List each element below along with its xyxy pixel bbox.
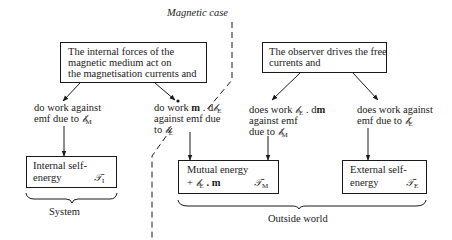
subscript: M <box>86 118 92 126</box>
m-vector: m <box>316 104 325 115</box>
diagram-title: Magnetic case <box>167 7 228 18</box>
internal-self-energy-line-1: Internal self- <box>33 160 87 171</box>
label-work-against-be-line-1: does work against <box>357 104 433 115</box>
text: . d <box>303 104 316 115</box>
text: to <box>154 124 165 135</box>
f-symbol: 𝒯 <box>94 172 102 183</box>
outside-world-brace <box>178 200 426 209</box>
subscript: E <box>414 182 418 190</box>
label-work-m-dbe-line-3: to 𝒷̇E <box>154 124 173 139</box>
external-self-energy-symbol: 𝒯E <box>406 177 418 192</box>
internal-self-energy-line-2: energy <box>33 172 61 183</box>
mutual-energy-symbol: 𝒯M <box>254 177 268 192</box>
label-work-be-dm-line-3: due to 𝒷̇M <box>249 126 288 141</box>
label-work-against-bm-line-2: emf due to 𝒷̇M <box>34 113 92 128</box>
group-label-system: System <box>49 206 80 217</box>
text: . d <box>200 102 213 113</box>
subscript: M <box>262 182 268 190</box>
m-vector: m <box>191 102 200 113</box>
system-brace <box>26 193 117 203</box>
external-self-energy-line-2: energy <box>350 177 378 188</box>
observer-line-2: currents and <box>269 57 321 68</box>
arrow-observer-to-be <box>353 73 378 100</box>
f-symbol: 𝒯 <box>406 177 414 188</box>
m-vector: . m <box>204 177 221 188</box>
arrow-observer-to-bedm <box>272 73 300 100</box>
group-label-outside-world: Outside world <box>268 213 328 224</box>
label-work-against-be-line-2: emf due to 𝒷̇E <box>357 115 413 130</box>
label-work-against-bm-line-1: do work against <box>34 102 101 113</box>
text: due to <box>249 126 278 137</box>
internal-forces-line-2: magnetic medium act on <box>68 57 172 68</box>
subscript: M <box>282 131 288 139</box>
subscript: I <box>102 177 104 185</box>
mutual-energy-line-2: + 𝒷E . m <box>187 177 220 192</box>
external-self-energy-line-1: External self- <box>350 164 407 175</box>
internal-forces-line-1: The internal forces of the <box>68 46 174 57</box>
arrow-internal-to-mdbe <box>155 83 175 100</box>
mutual-energy-line-1: Mutual energy <box>187 164 248 175</box>
text: emf due to <box>357 115 405 126</box>
label-work-be-dm-line-2: against emf <box>249 115 298 126</box>
observer-line-1: The observer drives the free <box>269 46 387 57</box>
subscript: E <box>409 120 413 128</box>
text: emf due to <box>34 113 82 124</box>
subscript: E <box>169 129 173 137</box>
text: do work <box>154 102 191 113</box>
internal-forces-line-3: the magnetisation currents and <box>68 68 197 79</box>
text: does work <box>249 104 295 115</box>
internal-self-energy-symbol: 𝒯I <box>94 172 104 187</box>
arrow-internal-to-bm <box>63 83 80 101</box>
f-symbol: 𝒯 <box>254 177 262 188</box>
label-work-m-dbe-line-2: against emf due <box>154 113 220 124</box>
text: + <box>187 177 196 188</box>
